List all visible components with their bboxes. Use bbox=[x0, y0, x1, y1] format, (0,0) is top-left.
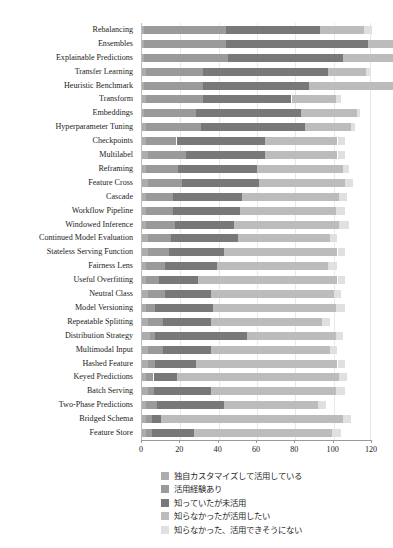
y-axis-tick-label: Cascade bbox=[106, 192, 133, 201]
x-axis-tick-label: 40 bbox=[214, 445, 222, 454]
bar-segment bbox=[163, 318, 211, 326]
y-axis-tick-label: Continued Model Evaluation bbox=[39, 233, 133, 242]
y-axis-tick-label: Ensembles bbox=[98, 39, 133, 48]
legend-swatch-icon bbox=[161, 512, 169, 520]
table-row[interactable] bbox=[142, 401, 370, 409]
bar-segment bbox=[146, 123, 202, 131]
bar-segment bbox=[203, 95, 291, 103]
y-axis-tick-label: Model Versioning bbox=[75, 303, 133, 312]
bar-segment bbox=[148, 346, 163, 354]
table-row[interactable] bbox=[142, 207, 370, 215]
table-row[interactable] bbox=[142, 179, 370, 187]
y-axis-labels: RebalancingEnsemblesExplainable Predicti… bbox=[0, 23, 137, 440]
legend-item[interactable]: 知っていたが未活用 bbox=[161, 496, 393, 510]
bar-segment bbox=[173, 207, 240, 215]
table-row[interactable] bbox=[142, 40, 370, 48]
y-axis-tick-label: Heuristic Benchmark bbox=[64, 81, 133, 90]
stacked-bar-chart: RebalancingEnsemblesExplainable Predicti… bbox=[0, 0, 393, 548]
table-row[interactable] bbox=[142, 109, 370, 117]
bar-segment bbox=[339, 193, 347, 201]
bar-segment bbox=[228, 54, 343, 62]
bar-segment bbox=[328, 262, 338, 270]
table-row[interactable] bbox=[142, 346, 370, 354]
bar-segment bbox=[154, 387, 212, 395]
y-axis-tick-label: Workflow Pipeline bbox=[72, 206, 133, 215]
legend-label: 独自カスタマイズして活用している bbox=[174, 471, 302, 481]
bar-segment bbox=[309, 82, 393, 90]
bar-segment bbox=[152, 429, 194, 437]
y-axis-tick-label: Multilabel bbox=[99, 150, 133, 159]
table-row[interactable] bbox=[142, 415, 370, 423]
bar-segment bbox=[336, 332, 344, 340]
bar-segment bbox=[152, 415, 162, 423]
bar-segment bbox=[148, 290, 165, 298]
bar-segment bbox=[196, 109, 301, 117]
bar-segment bbox=[148, 360, 156, 368]
bar-segment bbox=[169, 248, 225, 256]
legend-item[interactable]: 知らなかったが活用したい bbox=[161, 510, 393, 524]
bar-segment bbox=[177, 137, 265, 145]
table-row[interactable] bbox=[142, 151, 370, 159]
table-row[interactable] bbox=[142, 123, 370, 131]
bar-segment bbox=[146, 262, 165, 270]
table-row[interactable] bbox=[142, 54, 370, 62]
bar-segment bbox=[240, 207, 336, 215]
legend-item[interactable]: 独自カスタマイズして活用している bbox=[161, 469, 393, 483]
table-row[interactable] bbox=[142, 276, 370, 284]
bar-segment bbox=[211, 290, 334, 298]
table-row[interactable] bbox=[142, 137, 370, 145]
bar-segment bbox=[328, 68, 366, 76]
table-row[interactable] bbox=[142, 373, 370, 381]
bar-segment bbox=[343, 165, 349, 173]
y-axis-tick-label: Distribution Strategy bbox=[65, 331, 133, 340]
table-row[interactable] bbox=[142, 221, 370, 229]
table-row[interactable] bbox=[142, 387, 370, 395]
bar-segment bbox=[171, 234, 238, 242]
y-axis-tick-label: Transform bbox=[99, 94, 133, 103]
table-row[interactable] bbox=[142, 318, 370, 326]
bar-segment bbox=[142, 332, 150, 340]
y-axis-tick-label: Multimodal Input bbox=[76, 345, 133, 354]
y-axis-tick-label: Explainable Predictions bbox=[56, 53, 133, 62]
bar-segment bbox=[357, 109, 361, 117]
table-row[interactable] bbox=[142, 332, 370, 340]
bar-segment bbox=[146, 165, 179, 173]
bar-segment bbox=[163, 346, 211, 354]
bar-segment bbox=[330, 346, 338, 354]
legend-label: 活用経験あり bbox=[174, 484, 222, 494]
table-row[interactable] bbox=[142, 82, 370, 90]
bar-segment bbox=[332, 429, 342, 437]
table-row[interactable] bbox=[142, 95, 370, 103]
table-row[interactable] bbox=[142, 262, 370, 270]
y-axis-tick-label: Fairness Lens bbox=[88, 261, 133, 270]
legend-item[interactable]: 知らなかった、活用できそうにない bbox=[161, 523, 393, 537]
bar-segment bbox=[338, 248, 346, 256]
bar-segment bbox=[161, 415, 343, 423]
table-row[interactable] bbox=[142, 68, 370, 76]
bar-segment bbox=[213, 304, 336, 312]
table-row[interactable] bbox=[142, 290, 370, 298]
bar-segment bbox=[211, 387, 336, 395]
x-axis-tick-label: 60 bbox=[252, 445, 260, 454]
bar-segment bbox=[336, 207, 346, 215]
table-row[interactable] bbox=[142, 248, 370, 256]
bar-segment bbox=[198, 276, 338, 284]
table-row[interactable] bbox=[142, 193, 370, 201]
bar-segment bbox=[338, 137, 346, 145]
bar-segment bbox=[265, 137, 338, 145]
bar-segment bbox=[194, 429, 332, 437]
legend-item[interactable]: 活用経験あり bbox=[161, 483, 393, 497]
table-row[interactable] bbox=[142, 165, 370, 173]
table-row[interactable] bbox=[142, 429, 370, 437]
table-row[interactable] bbox=[142, 234, 370, 242]
bar-segment bbox=[144, 82, 203, 90]
bar-segment bbox=[320, 26, 364, 34]
table-row[interactable] bbox=[142, 26, 370, 34]
table-row[interactable] bbox=[142, 304, 370, 312]
legend-swatch-icon bbox=[161, 499, 169, 507]
table-row[interactable] bbox=[142, 360, 370, 368]
bar-segment bbox=[366, 68, 370, 76]
bar-segment bbox=[148, 151, 186, 159]
y-axis-tick-label: Feature Cross bbox=[88, 178, 133, 187]
bar-segment bbox=[234, 221, 339, 229]
